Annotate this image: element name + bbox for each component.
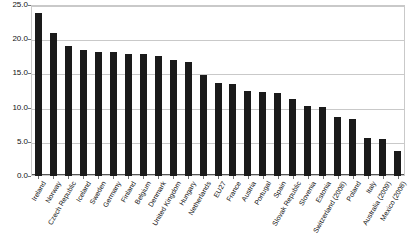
x-tick-mark: [53, 176, 54, 179]
bar: [50, 33, 57, 176]
x-tick-label-text: Poland: [345, 180, 362, 202]
bar: [334, 117, 341, 176]
x-tick-label: Spain: [272, 180, 287, 199]
bar: [215, 83, 222, 176]
x-tick-mark: [398, 176, 399, 179]
y-tick-label: 20.0: [0, 35, 28, 43]
x-tick-mark: [218, 176, 219, 179]
bar: [319, 107, 326, 176]
x-tick-label-text: Italy: [364, 180, 376, 195]
x-tick-mark: [98, 176, 99, 179]
x-tick-mark: [188, 176, 189, 179]
y-tick-label: 25.0: [0, 1, 28, 9]
x-tick-mark: [158, 176, 159, 179]
bar: [185, 62, 192, 176]
bar: [394, 151, 401, 176]
bar: [65, 46, 72, 176]
x-tick-label-text: EU27: [212, 180, 227, 199]
bar: [259, 92, 266, 176]
x-tick-mark: [368, 176, 369, 179]
y-axis: 25.020.015.010.05.00.0: [0, 0, 28, 181]
y-tick-label: 0.0: [0, 172, 28, 180]
x-tick-mark: [293, 176, 294, 179]
x-tick-mark: [263, 176, 264, 179]
bar: [125, 54, 132, 176]
bar: [80, 50, 87, 176]
x-tick-mark: [83, 176, 84, 179]
x-axis-labels: IrelandNorwayCzech RepublicIcelandSweden…: [31, 180, 405, 241]
y-tick-label: 5.0: [0, 138, 28, 146]
x-tick-mark: [68, 176, 69, 179]
x-tick-mark: [308, 176, 309, 179]
bar: [364, 138, 371, 176]
bar: [274, 93, 281, 176]
bar: [349, 119, 356, 176]
x-tick-mark: [338, 176, 339, 179]
bar-chart: 25.020.015.010.05.00.0 IrelandNorwayCzec…: [0, 0, 408, 241]
x-tick-mark: [143, 176, 144, 179]
x-tick-mark: [113, 176, 114, 179]
x-tick-mark: [383, 176, 384, 179]
y-tick-label: 15.0: [0, 69, 28, 77]
bar: [229, 84, 236, 176]
x-tick-mark: [203, 176, 204, 179]
bar: [35, 13, 42, 176]
bar: [244, 91, 251, 177]
x-tick-mark: [248, 176, 249, 179]
x-tick-mark: [233, 176, 234, 179]
x-tick-label: Italy: [364, 180, 376, 195]
x-tick-label: Poland: [345, 180, 362, 202]
y-tick-label: 10.0: [0, 104, 28, 112]
bar: [110, 52, 117, 176]
x-tick-mark: [323, 176, 324, 179]
x-tick-mark: [278, 176, 279, 179]
x-tick-mark: [353, 176, 354, 179]
bars-layer: [31, 5, 405, 176]
bar: [200, 75, 207, 176]
bar: [95, 52, 102, 176]
x-tick-mark: [38, 176, 39, 179]
x-tick-label-text: Spain: [272, 180, 287, 199]
bar: [304, 106, 311, 176]
x-tick-mark: [173, 176, 174, 179]
bar: [170, 60, 177, 176]
bar: [140, 54, 147, 176]
bar: [289, 99, 296, 176]
bar: [155, 56, 162, 176]
x-tick-label: EU27: [212, 180, 227, 199]
bar: [379, 139, 386, 176]
x-tick-mark: [128, 176, 129, 179]
